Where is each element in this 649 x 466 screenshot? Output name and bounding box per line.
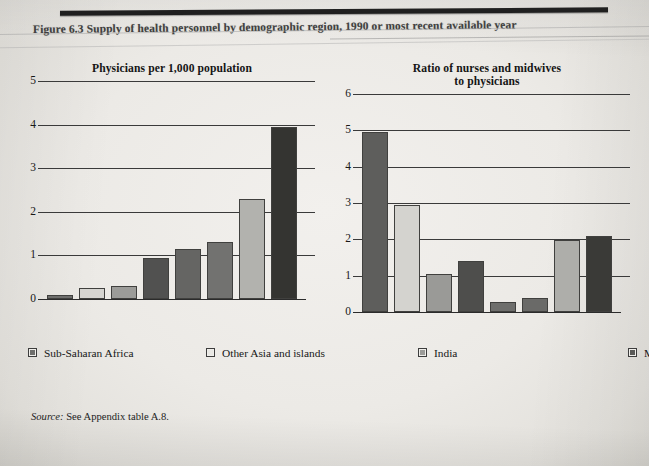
bar <box>47 295 73 299</box>
y-axis-tick <box>621 276 630 277</box>
gridline <box>353 130 621 131</box>
legend-swatch-icon <box>628 348 637 357</box>
plot-area-physicians: 012345 <box>22 81 322 303</box>
y-axis-tick-label: 3 <box>337 197 351 209</box>
legend-item: Other Asia and islands <box>206 344 418 361</box>
gridline <box>38 255 306 256</box>
bar <box>79 288 105 299</box>
y-axis-tick <box>306 81 315 82</box>
chart-title-physicians: Physicians per 1,000 population <box>22 62 322 75</box>
y-axis-tick <box>621 203 630 204</box>
y-axis-tick <box>306 168 315 169</box>
legend-item: Sub-Saharan Africa <box>28 344 206 361</box>
y-axis-tick <box>621 130 630 131</box>
chart-panel-physicians: Physicians per 1,000 population 012345 <box>22 62 322 303</box>
legend-label: Middle Eastern crescent <box>644 347 649 359</box>
gridline <box>353 94 621 95</box>
legend-swatch-icon <box>418 348 427 357</box>
bar <box>207 242 233 299</box>
legend-item: India <box>418 344 628 361</box>
y-axis-tick <box>306 212 315 213</box>
gridline <box>38 81 306 82</box>
y-axis-tick-label: 6 <box>337 88 351 100</box>
bar <box>490 302 516 312</box>
y-axis-tick-label: 0 <box>337 306 351 318</box>
chart-panel-nurse-ratio: Ratio of nurses and midwives to physicia… <box>337 62 637 316</box>
y-axis-tick-label: 3 <box>22 162 36 174</box>
legend-label: India <box>434 347 457 359</box>
source-label: Source: <box>31 411 64 422</box>
gridline <box>38 168 306 169</box>
bar <box>426 274 452 312</box>
legend-swatch-icon <box>206 348 215 357</box>
bar <box>554 240 580 312</box>
y-axis-tick-label: 2 <box>337 234 351 246</box>
gridline <box>38 212 306 213</box>
bar <box>394 205 420 312</box>
y-axis-tick <box>621 167 630 168</box>
y-axis-tick <box>621 239 630 240</box>
bar <box>175 249 201 299</box>
y-axis-tick-label: 4 <box>337 161 351 173</box>
y-axis-tick-label: 1 <box>337 270 351 282</box>
y-axis-tick-label: 1 <box>22 250 36 262</box>
gridline <box>38 125 306 126</box>
bar <box>362 132 388 312</box>
gridline <box>353 239 621 240</box>
gridline <box>353 276 621 277</box>
y-axis-tick-label: 0 <box>22 293 36 305</box>
gridline <box>353 203 621 204</box>
bar <box>586 236 612 312</box>
bar <box>271 127 297 299</box>
legend-label: Other Asia and islands <box>222 347 325 359</box>
y-axis-tick-label: 2 <box>22 206 36 218</box>
y-axis-tick-label: 5 <box>22 75 36 87</box>
y-axis-tick <box>621 94 630 95</box>
bar <box>458 261 484 312</box>
bar <box>522 298 548 312</box>
source-text: See Appendix table A.8. <box>66 411 169 422</box>
legend-label: Sub-Saharan Africa <box>44 347 134 359</box>
bar <box>239 199 265 299</box>
bar <box>143 258 169 299</box>
chart-legend: Sub-Saharan AfricaOther Asia and islands… <box>28 344 628 361</box>
axis-baseline <box>38 299 306 300</box>
y-axis-tick-label: 5 <box>337 125 351 137</box>
y-axis-tick <box>306 255 315 256</box>
source-note: Source: See Appendix table A.8. <box>31 411 169 422</box>
legend-swatch-icon <box>28 348 37 357</box>
axis-baseline <box>353 312 621 313</box>
y-axis-tick-label: 4 <box>22 119 36 131</box>
gridline <box>353 167 621 168</box>
y-axis-tick <box>306 125 315 126</box>
legend-item: Middle Eastern crescent <box>628 344 649 361</box>
chart-title-nurse-ratio: Ratio of nurses and midwives to physicia… <box>337 62 637 88</box>
plot-area-nurse-ratio: 0123456 <box>337 94 637 316</box>
bar <box>111 286 137 299</box>
